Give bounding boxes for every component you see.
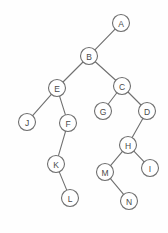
node-label-c: C: [119, 82, 125, 92]
tree-edge-m-n: [110, 179, 123, 195]
tree-edge-c-g: [108, 93, 117, 104]
tree-node-g[interactable]: G: [95, 103, 112, 120]
tree-edge-a-b: [95, 29, 115, 50]
tree-node-k[interactable]: K: [48, 156, 65, 173]
tree-node-n[interactable]: N: [121, 193, 138, 210]
node-label-l: L: [68, 194, 73, 204]
node-label-n: N: [126, 197, 132, 207]
node-label-i: I: [149, 164, 151, 174]
tree-node-m[interactable]: M: [97, 164, 114, 181]
tree-node-j[interactable]: J: [19, 114, 36, 131]
tree-canvas: ABCEGDJFHKIMLN: [0, 0, 168, 233]
tree-node-a[interactable]: A: [113, 15, 130, 32]
node-label-a: A: [118, 19, 124, 29]
tree-node-h[interactable]: H: [120, 137, 137, 154]
node-label-g: G: [100, 107, 107, 117]
node-label-f: F: [65, 119, 70, 129]
tree-edge-h-i: [134, 151, 144, 162]
node-label-h: H: [125, 141, 131, 151]
tree-edge-b-e: [63, 62, 83, 82]
node-label-k: K: [53, 160, 59, 170]
node-layer: ABCEGDJFHKIMLN: [19, 15, 159, 210]
tree-edge-e-f: [60, 96, 66, 115]
tree-edge-f-k: [58, 131, 65, 156]
node-label-d: D: [144, 107, 150, 117]
tree-node-d[interactable]: D: [139, 103, 156, 120]
tree-edge-d-h: [132, 118, 143, 137]
node-label-m: M: [101, 168, 108, 178]
tree-node-e[interactable]: E: [49, 80, 66, 97]
tree-node-f[interactable]: F: [60, 115, 77, 132]
node-label-b: B: [86, 52, 92, 62]
tree-edge-e-j: [33, 94, 52, 115]
tree-edge-c-d: [128, 92, 141, 105]
tree-edge-b-c: [95, 62, 115, 81]
tree-node-c[interactable]: C: [114, 78, 131, 95]
node-label-e: E: [54, 84, 60, 94]
binary-tree-diagram: ABCEGDJFHKIMLN: [0, 0, 168, 233]
node-label-j: J: [25, 118, 29, 128]
tree-node-b[interactable]: B: [81, 48, 98, 65]
tree-edge-k-l: [59, 172, 67, 190]
tree-node-l[interactable]: L: [62, 190, 79, 207]
tree-node-i[interactable]: I: [142, 160, 159, 177]
tree-edge-h-m: [111, 151, 123, 165]
